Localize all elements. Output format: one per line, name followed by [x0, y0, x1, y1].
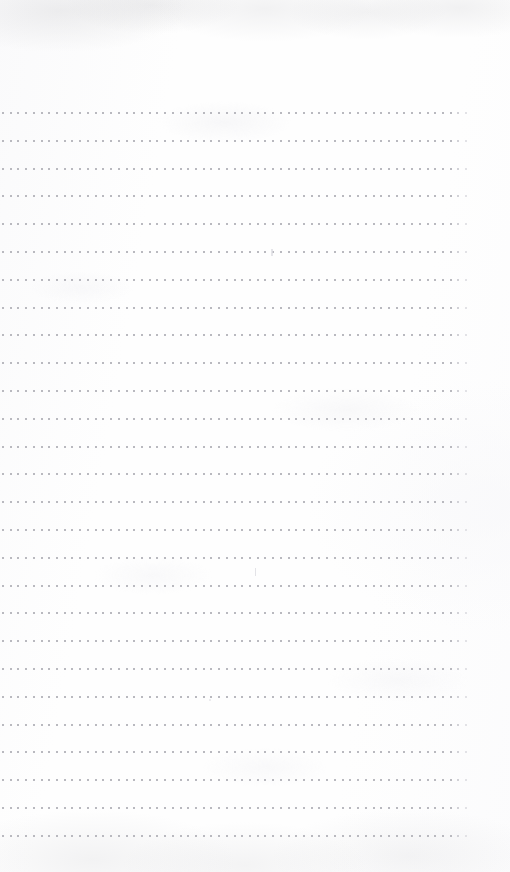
scanned-page — [0, 0, 510, 872]
paper-background — [0, 0, 510, 872]
